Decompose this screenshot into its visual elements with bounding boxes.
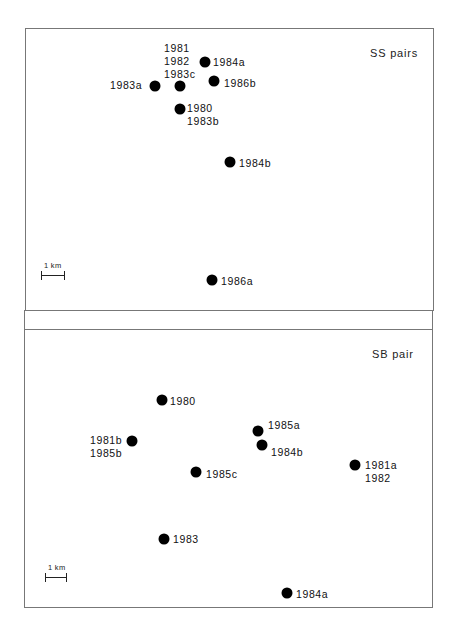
- event-label: 1980 1983b: [187, 102, 219, 128]
- event-label: 1981b 1985b: [90, 434, 122, 460]
- event-marker: [127, 436, 138, 447]
- event-marker: [175, 81, 186, 92]
- panel-title-ss-pairs: SS pairs: [370, 47, 418, 59]
- event-marker: [159, 534, 170, 545]
- scale-bar-ss: [41, 271, 65, 280]
- event-marker: [282, 588, 293, 599]
- event-marker: [253, 426, 264, 437]
- scale-bar-sb: [45, 573, 67, 582]
- event-marker: [157, 395, 168, 406]
- event-label: 1985c: [206, 468, 238, 481]
- event-label: 1984a: [213, 56, 245, 69]
- panel-divider: [24, 310, 433, 330]
- event-label: 1986a: [221, 275, 253, 288]
- event-label: 1983: [173, 533, 199, 546]
- event-marker: [209, 76, 220, 87]
- event-label: 1981 1982 1983c: [164, 42, 196, 81]
- panel-title-sb-pair: SB pair: [372, 348, 414, 360]
- event-label: 1981a 1982: [365, 459, 397, 485]
- event-marker: [200, 57, 211, 68]
- event-label: 1984b: [239, 157, 271, 170]
- event-marker: [150, 81, 161, 92]
- event-label: 1985a: [268, 419, 300, 432]
- scale-label-sb: 1 km: [48, 563, 65, 572]
- event-label: 1986b: [224, 77, 256, 90]
- event-label: 1984b: [271, 446, 303, 459]
- event-marker: [350, 460, 361, 471]
- event-marker: [225, 157, 236, 168]
- event-marker: [207, 275, 218, 286]
- event-label: 1983a: [110, 79, 142, 92]
- event-label: 1980: [170, 395, 196, 408]
- panel-ss-pairs: [25, 28, 434, 311]
- event-marker: [257, 440, 268, 451]
- event-label: 1984a: [296, 588, 328, 601]
- event-marker: [191, 467, 202, 478]
- event-marker: [175, 104, 186, 115]
- scale-label-ss: 1 km: [44, 261, 61, 270]
